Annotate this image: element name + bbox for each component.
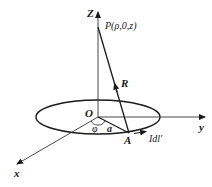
y-axis-label: y bbox=[197, 121, 204, 133]
origin-label: O bbox=[85, 107, 93, 119]
current-element-label: Idl' bbox=[148, 133, 163, 144]
point-a-label: A bbox=[123, 134, 131, 146]
z-axis-label: Z bbox=[86, 7, 94, 19]
x-axis-label: x bbox=[13, 167, 20, 179]
point-p-label: P(ρ,0,z) bbox=[104, 20, 137, 32]
r-vector-arrow bbox=[115, 84, 118, 93]
radius-a-label: a bbox=[107, 123, 112, 134]
loop-diagram: Z P(ρ,0,z) R O y φ a A Idl' x bbox=[0, 0, 212, 187]
vector-r-label: R bbox=[120, 77, 128, 89]
angle-phi-label: φ bbox=[92, 123, 98, 134]
x-axis bbox=[17, 117, 98, 164]
current-element-arrow bbox=[134, 132, 146, 134]
